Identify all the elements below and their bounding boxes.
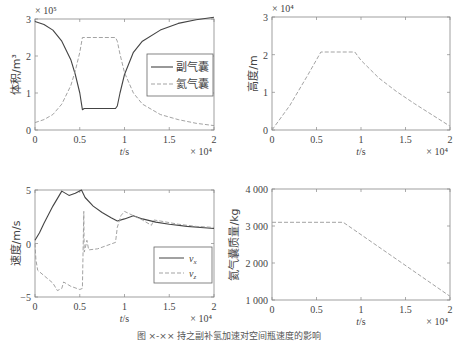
- legend-velocity: vxvz: [154, 247, 212, 283]
- chart-helium_mass: 00.511.521 0002 0003 0004 000t/s× 10⁴氦气囊…: [227, 184, 453, 327]
- x-tick-label: 0: [270, 134, 275, 145]
- x-tick-label: 1.5: [399, 134, 412, 145]
- y-axis-label: 高度/m: [246, 55, 260, 91]
- x-multiplier: × 10⁴: [426, 316, 448, 327]
- y-multiplier: × 10⁵: [35, 5, 57, 16]
- x-tick-label: 2: [448, 134, 453, 145]
- x-multiplier: × 10⁴: [190, 146, 212, 157]
- chart-altitude: 00.511.520123t/s× 10⁴× 10⁴高度/m: [246, 3, 453, 157]
- y-tick-label: 3 000: [246, 221, 269, 232]
- y-tick-label: 5: [26, 185, 31, 196]
- y-tick-label: 1 000: [246, 295, 269, 306]
- y-tick-label: 0: [26, 125, 31, 136]
- y-tick-label: −5: [20, 292, 31, 303]
- x-tick-label: 1.5: [399, 304, 412, 315]
- x-tick-label: 0.5: [74, 134, 87, 145]
- x-tick-label: 0: [270, 304, 275, 315]
- y-tick-label: 2: [26, 51, 31, 62]
- y-tick-label: 4 000: [246, 184, 269, 195]
- plot-frame: [272, 17, 450, 130]
- y-tick-label: 2: [263, 50, 268, 61]
- x-tick-label: 0: [33, 134, 38, 145]
- y-axis-label: 速度/m/s: [9, 220, 23, 266]
- x-tick-label: 2: [448, 304, 453, 315]
- y-axis-label: 氦气囊质量/kg: [227, 208, 241, 280]
- legend-entry: 副气囊: [176, 60, 209, 74]
- series-line: [272, 222, 450, 296]
- y-axis-label: 体积/m³: [9, 54, 23, 95]
- x-tick-label: 0.5: [310, 134, 323, 145]
- x-tick-label: 2: [212, 301, 217, 312]
- x-multiplier: × 10⁴: [190, 313, 212, 324]
- legend-volume: 副气囊氦气囊: [147, 54, 213, 96]
- x-tick-label: 1.5: [163, 301, 176, 312]
- x-tick-label: 1: [359, 304, 364, 315]
- series-line: [35, 190, 214, 240]
- y-tick-label: 1: [26, 88, 31, 99]
- x-tick-label: 1: [359, 134, 364, 145]
- x-axis-label: t/s: [356, 316, 366, 327]
- y-tick-label: 0: [263, 125, 268, 136]
- y-tick-label: 2 000: [246, 258, 269, 269]
- x-tick-label: 0.5: [310, 304, 323, 315]
- x-multiplier: × 10⁴: [426, 146, 448, 157]
- x-tick-label: 1: [122, 301, 127, 312]
- y-multiplier: × 10⁴: [272, 3, 294, 14]
- series-line: [272, 52, 450, 130]
- y-tick-label: 1: [263, 87, 268, 98]
- x-tick-label: 1: [122, 134, 127, 145]
- figure-caption: 图 ×-×× 持之副补氢加速对空间瓶速度的影响: [137, 330, 322, 341]
- x-tick-label: 1.5: [163, 134, 176, 145]
- y-tick-label: 0: [26, 239, 31, 250]
- legend-entry: 氦气囊: [176, 77, 209, 91]
- x-axis-label: t/s: [356, 146, 366, 157]
- x-axis-label: t/s: [120, 146, 130, 157]
- x-tick-label: 0: [33, 301, 38, 312]
- x-axis-label: t/s: [120, 313, 130, 324]
- y-tick-label: 3: [26, 14, 31, 25]
- y-tick-label: 3: [263, 12, 268, 23]
- plot-frame: [272, 189, 450, 300]
- figure-canvas: 00.511.520123t/s× 10⁴× 10⁵体积/m³00.511.52…: [0, 0, 458, 343]
- x-tick-label: 2: [212, 134, 217, 145]
- x-tick-label: 0.5: [74, 301, 87, 312]
